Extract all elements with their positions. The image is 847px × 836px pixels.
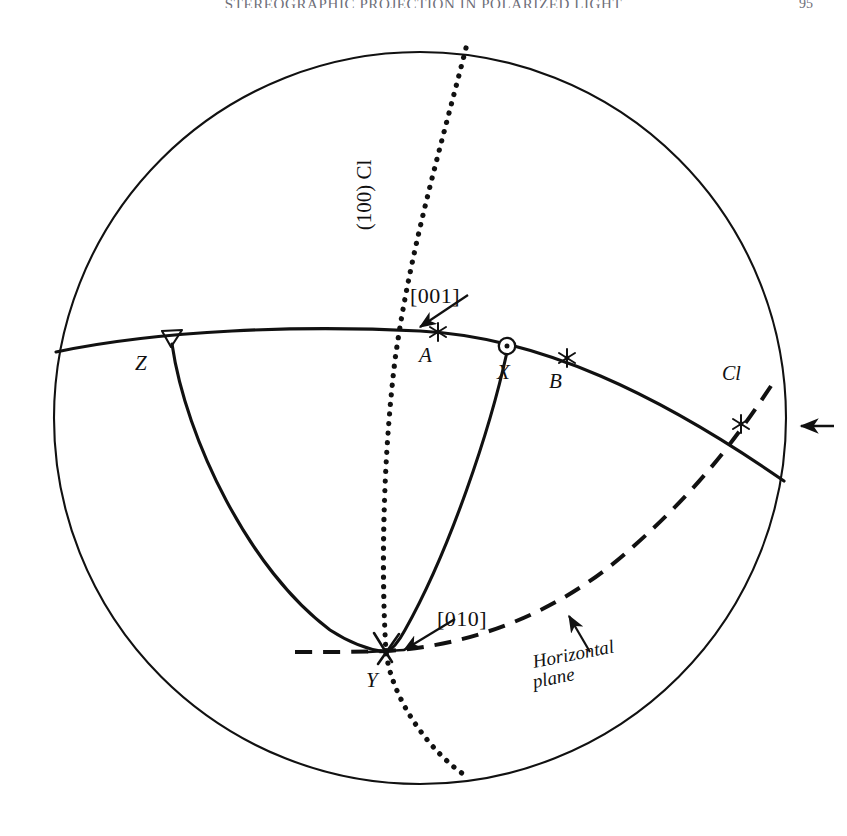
label-point-y: Y (366, 668, 380, 692)
label-direction-001: [001] (410, 283, 460, 308)
label-cl: Cl (722, 362, 741, 384)
label-plane-100: (100) Cl (352, 160, 376, 231)
plane-100-dotted-trace (383, 48, 466, 776)
arc-z-to-y (172, 344, 386, 652)
figure-page: STEREOGRAPHIC PROJECTION IN POLARIZED LI… (0, 0, 847, 836)
point-marker-z (162, 330, 182, 347)
point-marker-x (499, 338, 515, 354)
label-point-b: B (549, 369, 562, 393)
stereographic-projection-diagram: (100) Cl [001] [010] Horizontal plane Cl… (0, 0, 847, 836)
point-marker-cl (733, 415, 749, 433)
primitive-circle (54, 52, 786, 784)
label-direction-010: [010] (437, 606, 487, 631)
label-point-a: A (417, 343, 432, 367)
label-point-x: X (496, 360, 511, 384)
label-point-z: Z (135, 351, 147, 375)
